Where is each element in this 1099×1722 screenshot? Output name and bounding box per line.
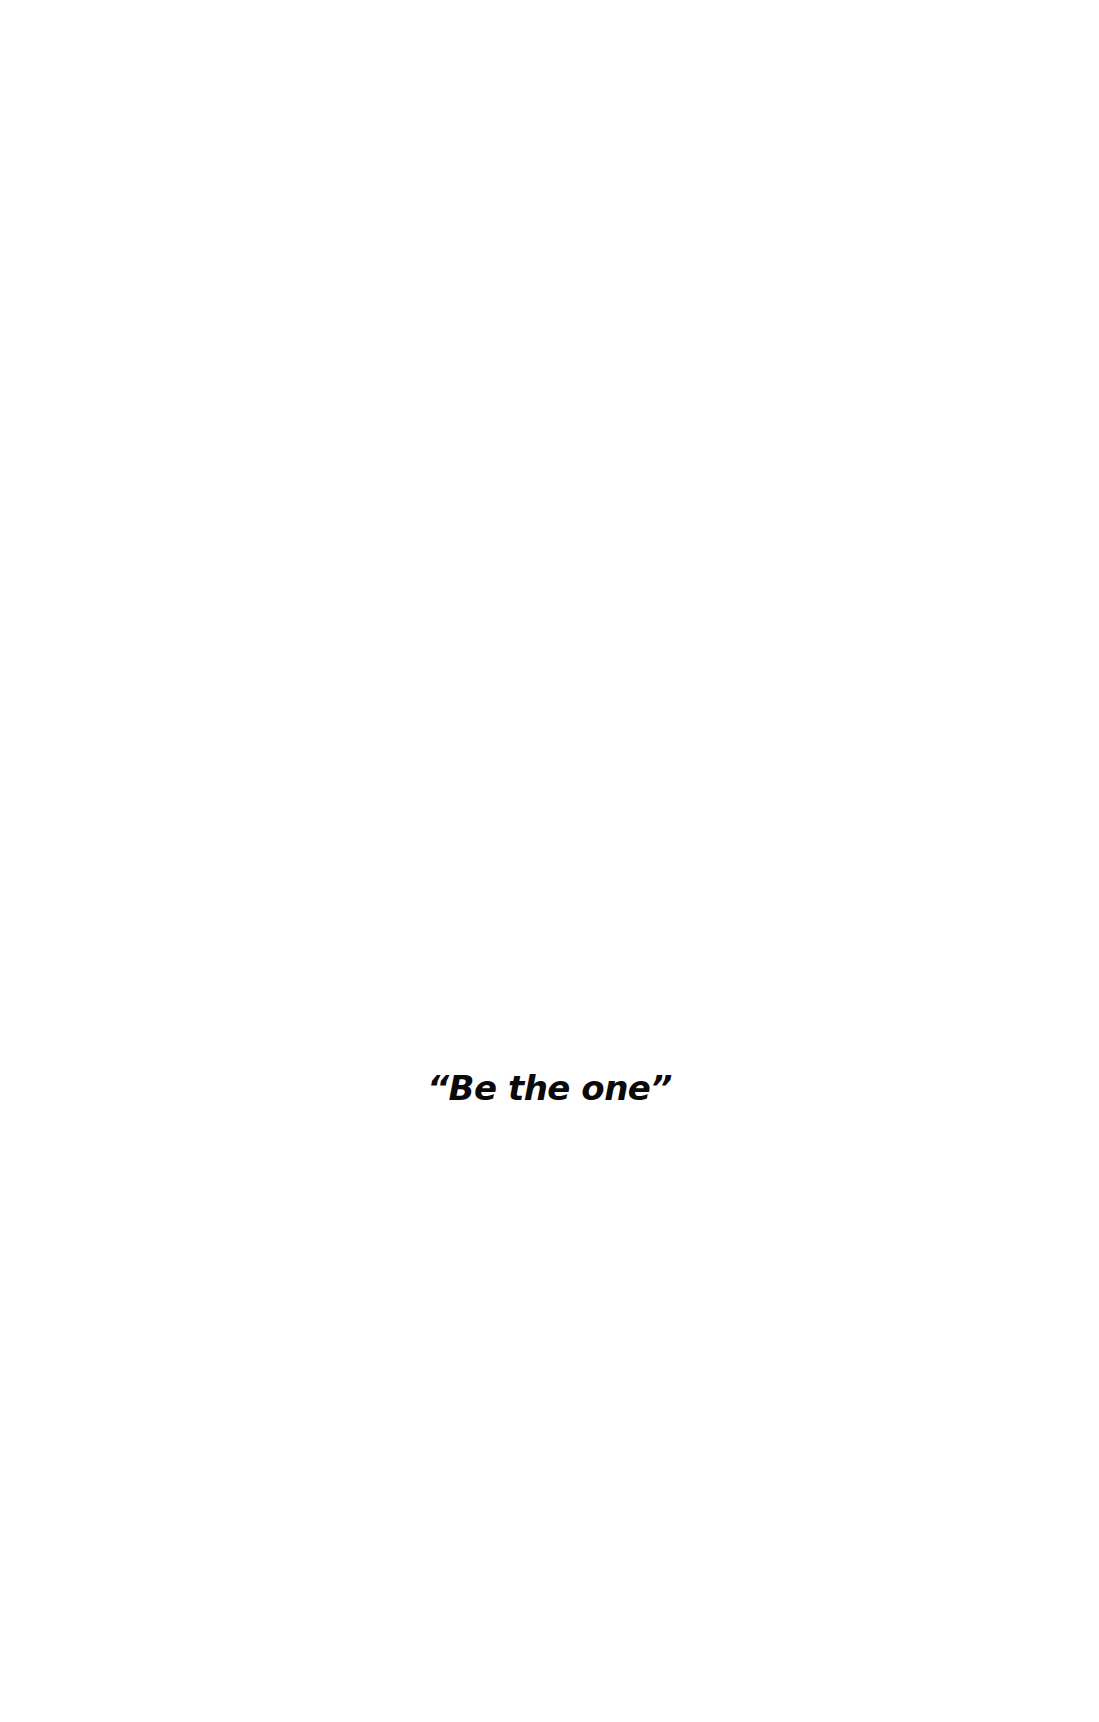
book-page: “Be the one” [0, 0, 1099, 1722]
epigraph-quote: “Be the one” [0, 1068, 1099, 1109]
